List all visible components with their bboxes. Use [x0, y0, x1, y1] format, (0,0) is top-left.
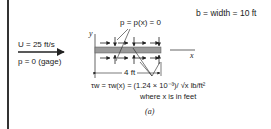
width-label: b = width = 10 ft: [196, 9, 256, 18]
x-axis-label: x: [190, 52, 194, 60]
surface-pressure-label: p = p(x) = 0: [120, 19, 161, 27]
figure-caption: (a): [145, 108, 154, 116]
shear-stress-note: where x is in feet: [140, 93, 196, 101]
freestream-pressure-label: p = 0 (gage): [18, 58, 61, 66]
plate-length-label: 4 ft: [122, 69, 137, 77]
freestream-velocity-label: U = 25 ft/s: [18, 41, 55, 49]
pressure-leader-lines: [116, 29, 130, 61]
flat-plate: [95, 47, 161, 53]
shear-stress-formula: τw = τw(x) = (1.24 × 10⁻³)/ √x lb/ft²: [91, 82, 205, 90]
y-axis-label: y: [89, 30, 93, 38]
